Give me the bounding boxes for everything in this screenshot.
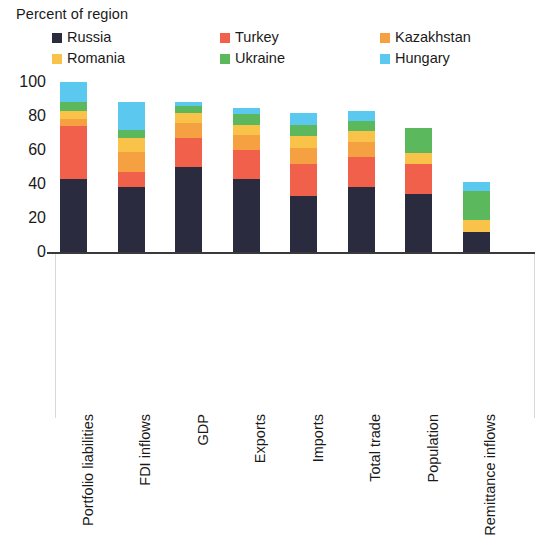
segment-russia <box>405 194 432 252</box>
bar-imports <box>290 113 317 252</box>
segment-ukraine <box>348 121 375 131</box>
legend-swatch-turkey <box>220 33 230 43</box>
bar-gdp <box>175 102 202 252</box>
segment-kazakhstan <box>175 123 202 138</box>
segment-kazakhstan <box>290 148 317 163</box>
x-label-portfolio-liabilities: Portfolio liabilities <box>81 414 96 526</box>
legend-swatch-hungary <box>380 54 390 64</box>
legend-label-kazakhstan: Kazakhstan <box>395 30 471 45</box>
segment-romania <box>175 113 202 123</box>
segment-turkey <box>290 164 317 196</box>
segment-ukraine <box>60 102 87 111</box>
bar-population <box>405 128 432 252</box>
chart-legend: Russia Turkey Kazakhstan Romania Ukraine… <box>52 27 537 69</box>
segment-ukraine <box>463 191 490 220</box>
segment-romania <box>118 138 145 152</box>
legend-item-turkey: Turkey <box>220 30 380 45</box>
legend-item-russia: Russia <box>52 30 220 45</box>
segment-turkey <box>175 138 202 167</box>
segment-romania <box>233 125 260 135</box>
x-axis-labels: Portfolio liabilitiesFDI inflowsGDPExpor… <box>55 254 535 419</box>
segment-kazakhstan <box>60 119 87 126</box>
segment-russia <box>463 232 490 252</box>
legend-label-turkey: Turkey <box>235 30 279 45</box>
bar-portfolio-liabilities <box>60 82 87 252</box>
segment-turkey <box>405 164 432 195</box>
y-tick-40: 40 <box>28 175 46 193</box>
y-tick-100: 100 <box>19 73 46 91</box>
segment-romania <box>60 111 87 120</box>
plot-frame-edge <box>55 254 56 418</box>
segment-turkey <box>348 157 375 188</box>
segment-hungary <box>463 182 490 191</box>
segment-russia <box>348 187 375 252</box>
x-label-total-trade: Total trade <box>368 414 383 482</box>
segment-turkey <box>60 126 87 179</box>
segment-kazakhstan <box>118 152 145 172</box>
x-label-gdp: GDP <box>196 414 211 445</box>
bar-remittance-inflows <box>463 182 490 252</box>
x-label-fdi-inflows: FDI inflows <box>138 414 153 486</box>
y-axis-ticks: 100806040200 <box>0 82 52 252</box>
segment-kazakhstan <box>348 142 375 157</box>
legend-label-ukraine: Ukraine <box>235 51 285 66</box>
segment-russia <box>233 179 260 252</box>
plot-frame-edge <box>534 254 535 418</box>
legend-swatch-kazakhstan <box>380 33 390 43</box>
segment-russia <box>118 187 145 252</box>
segment-turkey <box>118 172 145 187</box>
legend-label-hungary: Hungary <box>395 51 450 66</box>
segment-hungary <box>118 102 145 129</box>
segment-hungary <box>348 111 375 121</box>
legend-swatch-ukraine <box>220 54 230 64</box>
legend-label-romania: Romania <box>67 51 125 66</box>
x-label-exports: Exports <box>253 414 268 463</box>
segment-kazakhstan <box>233 135 260 150</box>
segment-hungary <box>290 113 317 125</box>
legend-label-russia: Russia <box>67 30 111 45</box>
y-tick-80: 80 <box>28 107 46 125</box>
legend-item-kazakhstan: Kazakhstan <box>380 30 537 45</box>
segment-russia <box>290 196 317 252</box>
segment-ukraine <box>175 106 202 113</box>
segment-ukraine <box>290 125 317 137</box>
segment-ukraine <box>233 114 260 124</box>
segment-hungary <box>233 108 260 115</box>
segment-ukraine <box>118 130 145 139</box>
segment-ukraine <box>405 128 432 154</box>
segment-romania <box>290 136 317 148</box>
bar-total-trade <box>348 111 375 252</box>
legend-item-romania: Romania <box>52 51 220 66</box>
bar-fdi-inflows <box>118 102 145 252</box>
x-label-population: Population <box>426 414 441 483</box>
segment-russia <box>60 179 87 252</box>
legend-swatch-russia <box>52 33 62 43</box>
legend-item-ukraine: Ukraine <box>220 51 380 66</box>
y-tick-60: 60 <box>28 141 46 159</box>
x-label-remittance-inflows: Remittance inflows <box>483 414 498 536</box>
y-tick-20: 20 <box>28 209 46 227</box>
y-axis-title: Percent of region <box>16 6 128 22</box>
segment-romania <box>405 153 432 163</box>
segment-hungary <box>60 82 87 102</box>
x-label-imports: Imports <box>311 414 326 462</box>
segment-russia <box>175 167 202 252</box>
segment-turkey <box>233 150 260 179</box>
bar-exports <box>233 108 260 252</box>
segment-romania <box>348 131 375 141</box>
legend-item-hungary: Hungary <box>380 51 537 66</box>
plot-area <box>55 82 535 252</box>
y-tick-0: 0 <box>37 243 46 261</box>
legend-swatch-romania <box>52 54 62 64</box>
segment-romania <box>463 220 490 232</box>
